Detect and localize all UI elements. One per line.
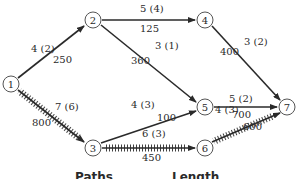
critical-hatch xyxy=(17,88,81,141)
length-heading: Length xyxy=(172,170,219,179)
edge-2-5-cost-label: 360 xyxy=(131,55,150,66)
node-7-label: 7 xyxy=(284,102,290,113)
edge-4-7-duration-label: 3 (2) xyxy=(244,36,268,47)
node-1-label: 1 xyxy=(8,79,14,90)
node-3: 3 xyxy=(85,140,101,156)
edge-2-4-duration-label: 5 (4) xyxy=(140,3,164,14)
edge-6-7-cost-label: 600 xyxy=(243,121,262,132)
paths-heading: Paths xyxy=(75,170,113,179)
critical-hatch xyxy=(104,145,186,152)
edge-5-7-duration-label: 5 (2) xyxy=(229,93,253,104)
node-3-label: 3 xyxy=(90,143,96,154)
node-5: 5 xyxy=(197,99,213,115)
edge-1-3-critical xyxy=(17,88,84,142)
node-2-label: 2 xyxy=(90,15,96,26)
node-6-label: 6 xyxy=(202,143,208,154)
edge-3-6-cost-label: 450 xyxy=(142,152,161,163)
network-diagram: 4 (2) 250 7 (6) 800 5 (4) 125 3 (1) 360 … xyxy=(0,0,298,179)
node-2: 2 xyxy=(85,12,101,28)
edge-3-5-duration-label: 4 (3) xyxy=(131,99,155,110)
edge-1-2-cost-label: 250 xyxy=(53,54,72,65)
node-5-label: 5 xyxy=(202,102,208,113)
edge-2-5-duration-label: 3 (1) xyxy=(155,40,179,51)
edge-3-6-duration-label: 6 (3) xyxy=(142,128,166,139)
edge-1-3-duration-label: 7 (6) xyxy=(55,101,79,112)
node-4-label: 4 xyxy=(202,15,208,26)
edge-3-5-cost-label: 100 xyxy=(157,112,176,123)
node-1: 1 xyxy=(3,76,19,92)
node-4: 4 xyxy=(197,12,213,28)
edge-4-7-cost-label: 400 xyxy=(220,46,239,57)
edge-6-7-duration-label: 4 (3) xyxy=(215,104,239,115)
edge-1-2-duration-label: 4 (2) xyxy=(31,43,55,54)
edge-1-3-cost-label: 800 xyxy=(32,117,51,128)
node-6: 6 xyxy=(197,140,213,156)
node-7: 7 xyxy=(279,99,295,115)
edge-3-6-critical xyxy=(102,145,195,152)
edge-2-4-cost-label: 125 xyxy=(140,23,159,34)
